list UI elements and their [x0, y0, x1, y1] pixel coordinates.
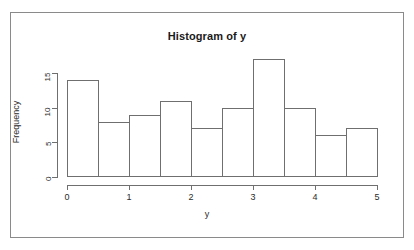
histogram-bar [129, 115, 161, 177]
x-axis-tick [67, 185, 68, 190]
histogram-bar [67, 80, 99, 177]
plot-area: 051015 Frequency 012345 y [0, 0, 414, 250]
x-axis-tick-label: 4 [305, 192, 325, 202]
x-axis-tick [377, 185, 378, 190]
x-axis-tick-label: 2 [181, 192, 201, 202]
x-axis-tick [315, 185, 316, 190]
histogram-bar [253, 59, 285, 177]
x-axis-tick [129, 185, 130, 190]
x-axis-tick [191, 185, 192, 190]
y-axis-tick-label-text: 15 [44, 73, 53, 82]
x-axis-tick-label: 5 [367, 192, 387, 202]
y-axis-tick-label-text: 0 [44, 177, 53, 181]
y-axis-title: Frequency [11, 82, 21, 162]
y-axis-tick-label: 15 [32, 68, 48, 78]
y-axis-line [57, 73, 58, 178]
x-axis-tick [253, 185, 254, 190]
y-axis-tick-label-text: 5 [44, 142, 53, 146]
y-axis-tick-label-text: 10 [44, 107, 53, 116]
x-axis-tick-label: 0 [57, 192, 77, 202]
y-axis-tick-label: 5 [32, 137, 48, 147]
histogram-screenshot: Histogram of y 051015 Frequency 012345 y [0, 0, 414, 250]
y-axis-tick [52, 73, 57, 74]
histogram-bar [346, 128, 378, 177]
y-axis-tick [52, 108, 57, 109]
y-axis-tick-label: 0 [32, 172, 48, 182]
x-axis-title: y [0, 209, 414, 219]
histogram-bar [191, 128, 223, 177]
x-axis-tick-label: 3 [243, 192, 263, 202]
y-axis-tick-label: 10 [32, 103, 48, 113]
histogram-bar [222, 108, 254, 177]
histogram-bar [284, 108, 316, 177]
histogram-bar [315, 135, 347, 177]
histogram-bar [98, 122, 130, 177]
x-axis-tick-label: 1 [119, 192, 139, 202]
histogram-bar [160, 101, 192, 177]
x-axis-line [67, 185, 378, 186]
